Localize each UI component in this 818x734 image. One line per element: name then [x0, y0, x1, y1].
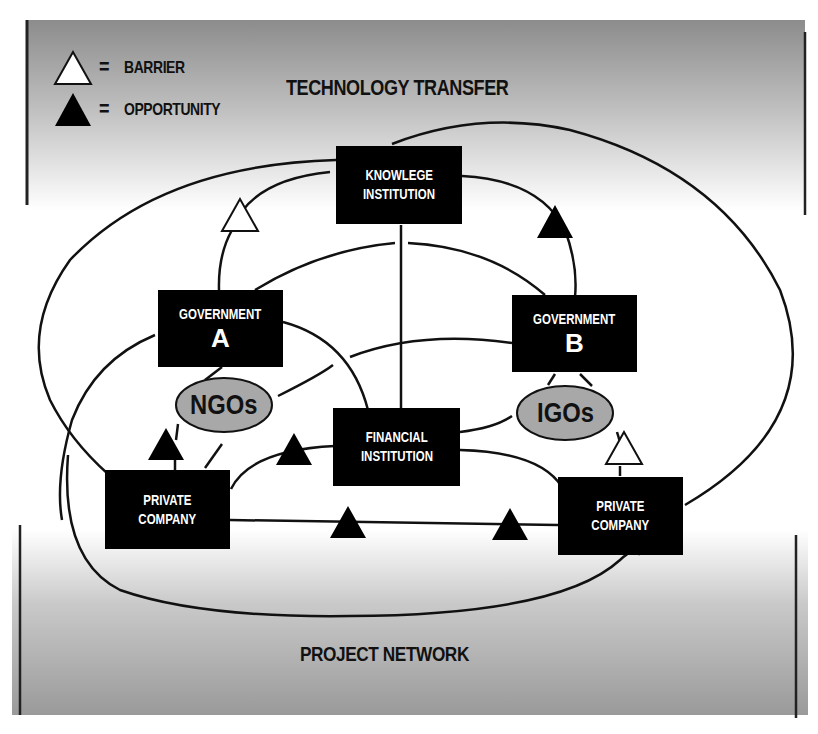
link-government-a-to-government-b-right [408, 243, 545, 295]
igos-text: IGOs [537, 397, 594, 429]
private-company-left-line1: PRIVATE [143, 491, 191, 510]
link-igos-to-financial [460, 416, 512, 432]
opportunity-triangle-icon [148, 428, 184, 460]
opportunity-triangle-icon [537, 205, 573, 238]
knowledge-institution-line1: KNOWLEGE [365, 166, 433, 185]
private-company-right-line1: PRIVATE [596, 497, 644, 516]
government-a-line1: GOVERNMENT [179, 305, 261, 324]
legend-barrier-equals: = [99, 54, 109, 80]
link-ngos-to-government-b-seg1 [278, 365, 333, 396]
igos-label: IGOs [517, 386, 613, 440]
financial-institution-line2: INSTITUTION [360, 447, 432, 466]
private-company-left-line2: COMPANY [139, 510, 197, 529]
financial-institution-line1: FINANCIAL [366, 428, 428, 447]
legend-opportunity-equals: = [99, 96, 109, 122]
government-b-line2: B [565, 329, 584, 358]
government-b-line1: GOVERNMENT [533, 310, 615, 329]
project-network-label: PROJECT NETWORK [300, 642, 469, 666]
link-government-b-to-igos-b [580, 374, 592, 386]
financial-institution-node: FINANCIAL INSTITUTION [333, 408, 460, 486]
link-financial-to-private-right [460, 450, 562, 487]
barrier-triangle-icon [222, 199, 258, 231]
ngos-text: NGOs [190, 389, 257, 421]
link-private-left-to-financial [231, 446, 335, 489]
knowledge-institution-line2: INSTITUTION [363, 185, 435, 204]
technology-transfer-diagram: = BARRIER = OPPORTUNITY TECHNOLOGY TRANS… [0, 0, 818, 734]
knowledge-institution-node: KNOWLEGE INSTITUTION [336, 146, 462, 224]
government-a-node: GOVERNMENT A [158, 290, 283, 367]
private-company-right-line2: COMPANY [592, 516, 650, 535]
link-private-left-to-ngos [205, 444, 222, 468]
private-company-left-node: PRIVATE COMPANY [105, 470, 230, 549]
link-government-a-to-government-b-left [255, 243, 395, 290]
ngos-label: NGOs [176, 378, 272, 432]
link-ngos-to-government-b-seg2 [350, 339, 512, 357]
legend-opportunity-triangle-icon [55, 93, 91, 126]
connections-layer [0, 0, 818, 734]
diagram-title: TECHNOLOGY TRANSFER [286, 75, 508, 101]
government-a-line2: A [211, 324, 230, 353]
link-government-a-to-financial [283, 322, 368, 410]
legend-opportunity-label: OPPORTUNITY [124, 100, 220, 120]
legend-barrier-label: BARRIER [124, 58, 185, 78]
private-company-right-node: PRIVATE COMPANY [558, 477, 683, 555]
legend-barrier-triangle-icon [55, 52, 91, 84]
government-b-node: GOVERNMENT B [512, 295, 637, 372]
link-government-b-to-igos-a [548, 374, 555, 385]
